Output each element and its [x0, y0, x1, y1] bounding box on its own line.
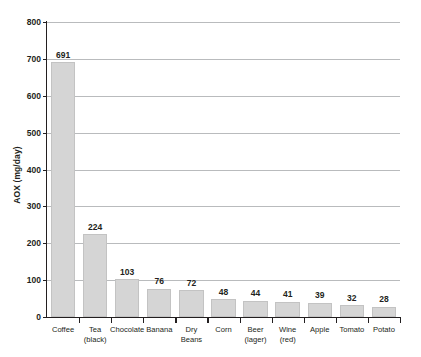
- bar-slot: 72: [175, 22, 207, 317]
- y-axis-tick-label: 400: [11, 165, 41, 175]
- x-axis-category-labels: CoffeeTea(black)ChocolateBananaDryBeansC…: [47, 325, 400, 355]
- bar[interactable]: [51, 62, 75, 317]
- x-axis-tick: [400, 318, 401, 323]
- bar-slot: 39: [304, 22, 336, 317]
- bar[interactable]: [83, 234, 107, 317]
- bar-slot: 224: [79, 22, 111, 317]
- x-axis-tick: [272, 318, 273, 323]
- x-axis-tick: [240, 318, 241, 323]
- bar[interactable]: [211, 299, 235, 317]
- bar-slot: 44: [240, 22, 272, 317]
- x-axis-label-line1: Tea: [89, 325, 101, 334]
- bar-slot: 41: [272, 22, 304, 317]
- x-axis-label-line1: Wine: [279, 325, 296, 334]
- x-axis-tick: [111, 318, 112, 323]
- x-axis-label-line1: Beer: [248, 325, 264, 334]
- x-axis-tick: [175, 318, 176, 323]
- x-axis-tick: [368, 318, 369, 323]
- bar[interactable]: [179, 290, 203, 317]
- bars-layer: 6912241037672484441393228: [47, 22, 400, 317]
- y-axis-tick-labels: 0100200300400500600700800: [8, 22, 41, 317]
- bar[interactable]: [275, 302, 299, 317]
- x-axis-label-line2: Beans: [169, 335, 213, 345]
- x-axis-ticks: [47, 318, 400, 323]
- x-axis-tick: [143, 318, 144, 323]
- x-axis-tick: [336, 318, 337, 323]
- bar-chart: AOX (mg/day) 0100200300400500600700800 6…: [0, 0, 421, 357]
- bar-value-label: 41: [272, 289, 304, 299]
- x-axis-label-line1: Tomato: [339, 325, 364, 334]
- bar-value-label: 76: [143, 276, 175, 286]
- bar-value-label: 28: [368, 294, 400, 304]
- y-axis-tick-label: 800: [11, 17, 41, 27]
- x-axis-tick: [79, 318, 80, 323]
- bar[interactable]: [115, 279, 139, 317]
- x-axis-tick: [207, 318, 208, 323]
- x-axis-label-line1: Apple: [310, 325, 329, 334]
- y-axis-tick-label: 0: [11, 312, 41, 322]
- bar-value-label: 72: [175, 278, 207, 288]
- bar-value-label: 691: [47, 50, 79, 60]
- bar-value-label: 44: [240, 288, 272, 298]
- bar-value-label: 224: [79, 222, 111, 232]
- bar[interactable]: [372, 307, 396, 317]
- bar-slot: 76: [143, 22, 175, 317]
- x-axis-label-line1: Coffee: [52, 325, 74, 334]
- bar-value-label: 48: [207, 287, 239, 297]
- bar[interactable]: [243, 301, 267, 317]
- x-axis-label-line1: Corn: [215, 325, 231, 334]
- bar[interactable]: [340, 305, 364, 317]
- bar-value-label: 32: [336, 293, 368, 303]
- bar-slot: 28: [368, 22, 400, 317]
- bar-slot: 48: [207, 22, 239, 317]
- y-axis-tick-label: 600: [11, 91, 41, 101]
- bar-slot: 103: [111, 22, 143, 317]
- x-axis-tick: [304, 318, 305, 323]
- x-axis-label-line1: Dry: [185, 325, 197, 334]
- x-axis-category-label: Potato: [362, 325, 406, 335]
- x-axis-label-line1: Potato: [373, 325, 395, 334]
- y-axis-tick-label: 700: [11, 54, 41, 64]
- bar[interactable]: [147, 289, 171, 317]
- x-axis-label-line2: (black): [73, 335, 117, 345]
- y-axis-tick-label: 500: [11, 128, 41, 138]
- y-axis-tick-label: 200: [11, 238, 41, 248]
- bar-value-label: 103: [111, 267, 143, 277]
- y-axis-tick-label: 300: [11, 201, 41, 211]
- bar[interactable]: [308, 303, 332, 317]
- y-axis-tick-label: 100: [11, 275, 41, 285]
- bar-slot: 32: [336, 22, 368, 317]
- bar-slot: 691: [47, 22, 79, 317]
- x-axis-label-line2: (red): [266, 335, 310, 345]
- bar-value-label: 39: [304, 290, 336, 300]
